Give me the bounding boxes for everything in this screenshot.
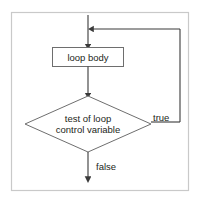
- loop-body-label: loop body: [67, 52, 108, 63]
- flowchart-svg: loop body test of loop control variable …: [0, 0, 200, 204]
- diagram-canvas: loop body test of loop control variable …: [0, 0, 200, 204]
- false-edge-label: false: [96, 161, 116, 172]
- true-edge-label: true: [153, 112, 169, 123]
- loop-test-label-line-2: control variable: [56, 124, 120, 135]
- loop-test-label-line-1: test of loop: [65, 113, 111, 124]
